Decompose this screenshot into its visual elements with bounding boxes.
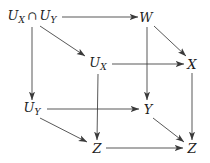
node-x: X (186, 58, 197, 71)
commutative-diagram: UX∩UY W UX X UY Y Z Z (0, 0, 210, 163)
node-uy: UY (22, 101, 41, 117)
node-z-right-label: Z (187, 141, 196, 156)
node-w: W (138, 11, 153, 24)
node-z-left-label: Z (92, 141, 101, 156)
node-ux-cap-uy-base2: U (39, 8, 50, 23)
node-ux: UX (88, 56, 108, 72)
node-uy-sub: Y (34, 107, 40, 117)
edge-ux-to-z1 (97, 74, 98, 140)
node-ux-cap-uy-base: U (7, 8, 18, 23)
node-w-label: W (139, 10, 152, 25)
node-y-label: Y (144, 102, 153, 117)
node-ux-cap-uy: UX∩UY (6, 9, 57, 25)
node-x-label: X (187, 57, 196, 72)
node-ux-base: U (89, 55, 100, 70)
node-uy-base: U (23, 100, 34, 115)
node-ux-cap-uy-sub2: Y (50, 15, 56, 25)
node-z-left: Z (91, 142, 102, 155)
node-y: Y (143, 103, 154, 116)
edge-uy-to-z1 (40, 118, 87, 142)
node-ux-cap-uy-sub: X (18, 15, 25, 25)
node-z-right: Z (186, 142, 197, 155)
intersection-icon: ∩ (25, 9, 39, 23)
edge-y-to-z2 (153, 118, 184, 142)
edge-uxcapuy-to-ux (40, 26, 85, 56)
node-ux-sub: X (100, 62, 107, 72)
edge-w-to-x (154, 26, 186, 56)
